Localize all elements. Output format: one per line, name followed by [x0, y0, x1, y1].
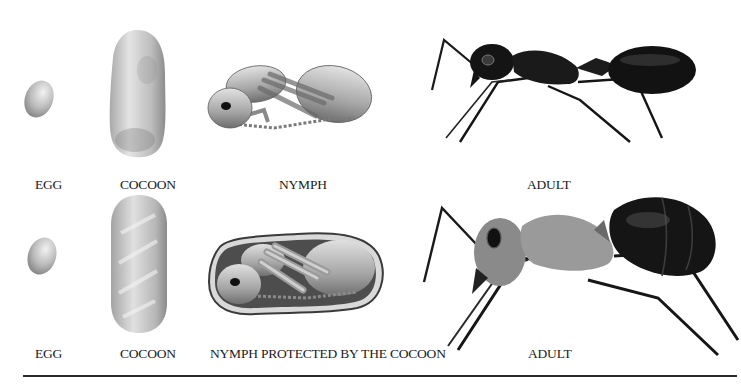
- stage-label-adult-row2: ADULT: [528, 346, 572, 362]
- nymph-icon: [204, 58, 376, 136]
- protected-nymph-illustration-row2: [207, 228, 385, 318]
- adult-ant-illustration-row1: [430, 30, 690, 142]
- cocoon-icon: [107, 28, 169, 160]
- egg-icon: [24, 233, 62, 279]
- cocoon-illustration-row2: [107, 193, 171, 335]
- horizontal-rule: [23, 375, 737, 377]
- ant-icon: [418, 190, 741, 355]
- egg-icon: [20, 75, 60, 123]
- stage-label-cocoon-row2: COCOON: [120, 346, 176, 362]
- nymph-in-cocoon-icon: [207, 228, 385, 318]
- stage-label-cocoon-row1: COCOON: [120, 177, 176, 193]
- stage-label-egg-row2: EGG: [35, 346, 62, 362]
- egg-illustration-row2: [24, 233, 62, 279]
- stage-label-nymph-row1: NYMPH: [279, 177, 327, 193]
- stage-label-protected-nymph-row2: NYMPH PROTECTED BY THE COCOON: [210, 346, 446, 362]
- cocoon-icon: [107, 193, 171, 335]
- cocoon-illustration-row1: [107, 28, 169, 160]
- stage-label-egg-row1: EGG: [35, 177, 62, 193]
- ant-icon: [430, 30, 690, 142]
- adult-ant-illustration-row2: [418, 190, 741, 355]
- nymph-illustration-row1: [204, 58, 376, 136]
- egg-illustration-row1: [20, 75, 60, 123]
